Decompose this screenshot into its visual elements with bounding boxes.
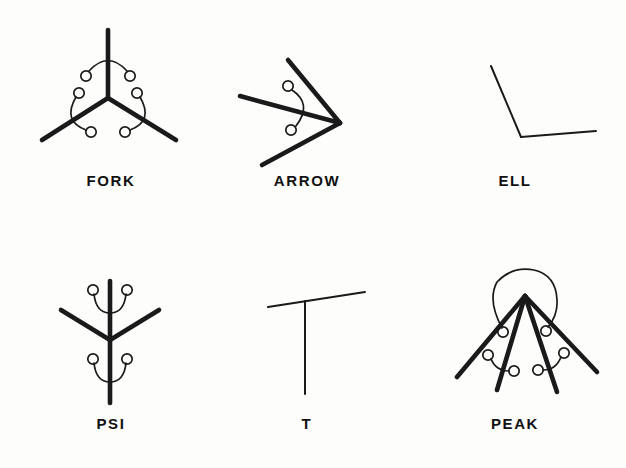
fork-circle-top-left	[81, 71, 91, 81]
arrow-arc	[292, 90, 304, 126]
arrow-circle-upper	[283, 81, 293, 91]
peak-circle-right-upper	[559, 348, 569, 358]
ell-branch-right	[521, 131, 596, 137]
junction-catalog-figure: FORK ARROW ELL PSI T PEAK	[0, 0, 626, 468]
peak-circle-outer-right	[541, 326, 551, 336]
caption-peak: PEAK	[404, 415, 626, 432]
psi-branch-upper-left	[61, 310, 110, 340]
fork-branch-lower-right	[108, 98, 176, 140]
psi-circle-lower-right	[122, 354, 132, 364]
psi-circle-upper-right	[122, 285, 132, 295]
t-branch-crossbar	[268, 292, 365, 307]
psi-branch-upper-right	[110, 310, 159, 340]
caption-arrow: ARROW	[196, 172, 418, 189]
caption-psi: PSI	[0, 415, 222, 432]
fork-circle-left-lower	[86, 127, 96, 137]
psi-circle-lower-left	[88, 354, 98, 364]
peak-circle-outer-left	[498, 327, 508, 337]
fork-circle-left-upper	[74, 88, 84, 98]
junction-peak	[457, 269, 597, 392]
ell-branch-upper	[491, 66, 521, 137]
peak-circle-left-upper	[483, 350, 493, 360]
peak-circle-left-lower	[509, 366, 519, 376]
junction-arrow	[240, 60, 340, 165]
fork-circle-top-right	[125, 71, 135, 81]
arrow-branch-middle	[240, 96, 340, 123]
caption-fork: FORK	[0, 172, 222, 189]
junction-ell	[491, 66, 596, 137]
junction-fork	[42, 30, 176, 140]
fork-circle-right-lower	[120, 127, 130, 137]
junction-psi	[61, 281, 159, 403]
junction-drawings-canvas	[0, 0, 626, 468]
fork-branch-lower-left	[42, 98, 108, 140]
psi-circle-upper-left	[88, 285, 98, 295]
caption-ell: ELL	[404, 172, 626, 189]
caption-t: T	[196, 415, 418, 432]
peak-circle-right-lower	[533, 365, 543, 375]
arrow-branch-upper	[288, 60, 340, 123]
arrow-branch-lower	[262, 123, 340, 165]
junction-t	[268, 292, 365, 394]
arrow-circle-lower	[286, 125, 296, 135]
fork-circle-right-upper	[132, 88, 142, 98]
